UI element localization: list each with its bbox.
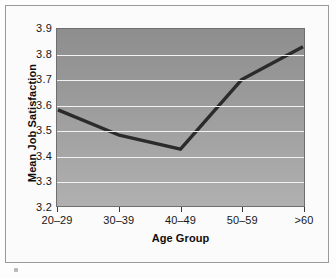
- x-tick-label: 20–29: [29, 214, 85, 226]
- y-tick-label: 3.9: [22, 23, 52, 34]
- gridline: [57, 80, 304, 81]
- y-axis-tick-labels: 3.93.83.73.63.53.43.33.2: [16, 0, 52, 278]
- x-axis-tick-labels: 20–2930–3940–4950–59>60: [56, 214, 305, 228]
- x-tick-mark: [119, 207, 120, 212]
- y-tick-label: 3.8: [22, 49, 52, 60]
- x-tick-label: >60: [276, 214, 332, 226]
- x-tick-mark: [304, 207, 305, 212]
- x-tick-label: 30–39: [91, 214, 147, 226]
- y-tick-label: 3.7: [22, 74, 52, 85]
- y-tick-label: 3.5: [22, 125, 52, 136]
- gridline: [57, 182, 304, 183]
- figure-container: Mean Job Satisfaction 3.93.83.73.63.53.4…: [0, 0, 336, 278]
- y-tick-label: 3.3: [22, 176, 52, 187]
- x-tick-mark: [57, 207, 58, 212]
- y-tick-label: 3.6: [22, 100, 52, 111]
- x-tick-mark: [181, 207, 182, 212]
- x-axis-ticks: [56, 207, 305, 213]
- y-tick-label: 3.2: [22, 202, 52, 213]
- x-tick-label: 50–59: [214, 214, 270, 226]
- gridline: [57, 55, 304, 56]
- x-axis-title: Age Group: [56, 232, 305, 244]
- y-tick-label: 3.4: [22, 151, 52, 162]
- plot-area: [56, 28, 305, 207]
- gridline: [57, 106, 304, 107]
- gridline: [57, 131, 304, 132]
- gridline: [57, 157, 304, 158]
- x-tick-mark: [242, 207, 243, 212]
- x-tick-label: 40–49: [153, 214, 209, 226]
